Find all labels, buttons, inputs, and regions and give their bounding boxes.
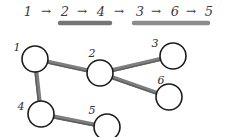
edge-1-2 xyxy=(47,62,89,71)
sequence-arrow-2: → xyxy=(77,4,87,18)
graph-node-5[interactable] xyxy=(94,114,120,137)
edge-2-6-shade xyxy=(111,78,157,94)
sequence-step-4: 4 xyxy=(96,4,105,19)
sequence-step-5: 5 xyxy=(205,4,213,19)
graph-node-2[interactable] xyxy=(87,60,113,86)
graph-node-6[interactable] xyxy=(156,84,182,110)
graph-node-3[interactable] xyxy=(160,43,186,69)
graph-node-label-3: 3 xyxy=(152,37,159,50)
sequence-arrow-4: → xyxy=(151,4,161,18)
graph-nodes-group xyxy=(22,43,186,137)
graph-node-label-4: 4 xyxy=(17,100,25,113)
sequence-arrow-5: → xyxy=(186,4,196,18)
graph-node-label-2: 2 xyxy=(88,47,96,60)
sequence-step-3: 3 xyxy=(136,4,144,19)
graph-node-1[interactable] xyxy=(22,46,48,72)
graph-node-4[interactable] xyxy=(28,101,54,127)
sequence-arrow-3: → xyxy=(114,4,124,18)
graph-node-label-6: 6 xyxy=(158,74,165,87)
diagram-canvas: →→→→→ 124365 123456 xyxy=(0,0,227,137)
sequence-step-2: 2 xyxy=(60,4,69,19)
graph-node-label-1: 1 xyxy=(14,41,21,54)
edge-2-3-shade xyxy=(112,60,162,72)
sequence-step-1: 1 xyxy=(24,4,32,19)
edge-2-3 xyxy=(112,59,162,71)
diagram-root: →→→→→ 124365 123456 xyxy=(0,0,227,137)
edge-2-6 xyxy=(111,77,157,93)
sequence-arrow-1: → xyxy=(41,4,51,18)
graph-node-label-5: 5 xyxy=(89,104,96,117)
edge-4-5 xyxy=(53,116,95,124)
sequence-step-6: 6 xyxy=(171,4,179,19)
